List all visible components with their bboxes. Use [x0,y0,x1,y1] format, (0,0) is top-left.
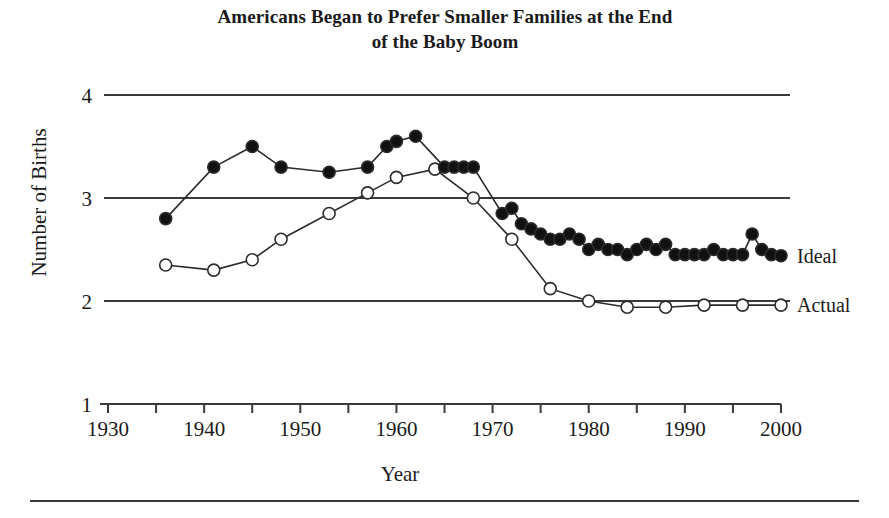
data-point-ideal [506,202,518,214]
data-point-actual [737,299,749,311]
data-point-ideal [775,250,787,262]
data-point-actual [208,264,220,276]
data-point-ideal [160,213,172,225]
data-point-actual [323,207,335,219]
data-point-actual [698,299,710,311]
data-point-actual [506,233,518,245]
figure-container: Americans Began to Prefer Smaller Famili… [0,0,889,518]
y-tick-label: 3 [82,187,93,211]
data-point-ideal [737,249,749,261]
data-point-ideal [246,141,258,153]
data-point-actual [583,295,595,307]
data-point-actual [160,259,172,271]
data-point-ideal [208,161,220,173]
data-point-actual [660,301,672,313]
series-actual [160,163,787,313]
data-point-actual [467,192,479,204]
data-point-ideal [275,161,287,173]
data-point-ideal [660,238,672,250]
x-axis-line [108,404,781,413]
data-point-actual [246,254,258,266]
data-point-actual [390,171,402,183]
data-point-ideal [573,233,585,245]
y-tick-label: 4 [82,84,93,108]
data-point-ideal [746,228,758,240]
data-point-ideal [467,161,479,173]
y-tick-labels: 1234 [82,84,93,417]
data-point-actual [362,187,374,199]
data-point-actual [275,233,287,245]
x-tick-label: 1970 [472,417,514,441]
x-tick-label: 1960 [375,417,417,441]
data-point-ideal [323,166,335,178]
legend: IdealActual [797,245,851,316]
series-line [166,169,781,307]
data-point-actual [544,283,556,295]
x-tick-label: 1930 [87,417,129,441]
data-point-actual [775,299,787,311]
x-tick-labels: 19301940195019601970198019902000 [87,417,802,441]
plot-area: 1234 19301940195019601970198019902000 Id… [0,0,889,500]
legend-label-ideal: Ideal [797,245,837,267]
x-tick-label: 2000 [760,417,802,441]
legend-label-actual: Actual [797,294,851,316]
x-tick-label: 1990 [664,417,706,441]
data-point-actual [621,301,633,313]
data-point-ideal [410,130,422,142]
x-tick-label: 1950 [279,417,321,441]
bottom-rule [30,500,859,502]
x-tick-label: 1980 [568,417,610,441]
x-tick-label: 1940 [183,417,225,441]
data-point-ideal [390,135,402,147]
y-tick-label: 2 [82,290,93,314]
data-point-ideal [362,161,374,173]
y-tick-label: 1 [82,393,93,417]
